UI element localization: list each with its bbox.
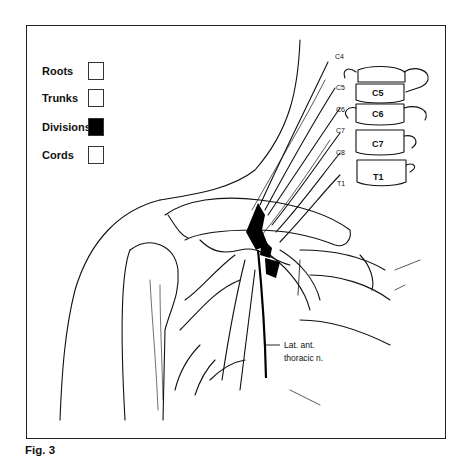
legend-item-roots: Roots [42,62,152,82]
label-c7-vertebra: C7 [372,139,384,149]
legend-swatch-cords [88,146,104,164]
nerve-c8 [276,153,340,232]
label-c5-vertebra: C5 [372,88,384,98]
neck-outline [160,40,300,200]
label-c6-vertebra: C6 [372,109,384,119]
divisions-highlight [246,203,280,278]
cord-lateral [222,260,245,380]
annotation-line1: Lat. ant. [284,340,315,350]
legend-label: Trunks [42,92,78,104]
humerus-outline [130,243,178,420]
legend-swatch-trunks [88,89,104,107]
nerve-c4 [260,62,328,205]
legend-label: Divisions [42,121,91,133]
legend-item-trunks: Trunks [42,89,152,109]
lat-ant-thoracic-nerve [258,250,266,378]
label-t1-nerve: T1 [337,180,345,187]
legend-item-cords: Cords [42,146,152,166]
shoulder-outline [60,200,160,420]
vertebra-c4-top [358,66,405,82]
label-c4: C4 [335,53,344,60]
cord-medial [240,270,255,390]
nerve-t1 [280,175,340,242]
legend-swatch-roots [88,62,104,80]
label-c7-nerve: C7 [336,127,345,134]
legend-label: Cords [42,149,74,161]
label-c6-nerve: C6 [336,106,345,113]
label-t1-vertebra: T1 [373,172,384,182]
label-c5-nerve: C5 [336,84,345,91]
label-c8-nerve: C8 [336,149,345,156]
legend-item-divisions: Divisions [42,118,152,138]
legend-label: Roots [42,65,73,77]
annotation-line2: thoracic n. [284,353,323,363]
figure-caption: Fig. 3 [25,444,55,456]
legend-swatch-divisions [88,118,104,136]
